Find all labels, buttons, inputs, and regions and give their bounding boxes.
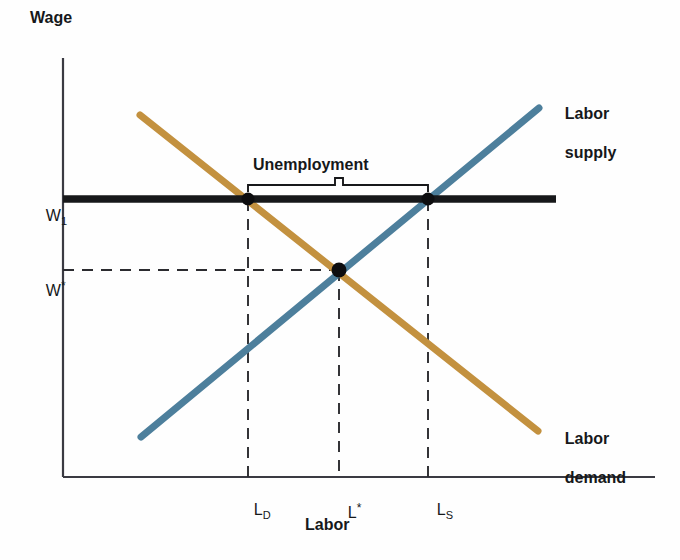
- y-tick-w1-base: W: [46, 207, 61, 224]
- y-tick-label-w1: W1: [28, 189, 67, 245]
- x-tick-lstar-sup: *: [357, 501, 362, 515]
- y-tick-wstar-base: W: [46, 282, 61, 299]
- labor-supply-label-line2: supply: [565, 144, 617, 161]
- x-tick-ls-sub: S: [446, 509, 453, 521]
- labor-demand-label-line1: Labor: [565, 430, 609, 447]
- labor-demand-label-line2: demand: [565, 469, 626, 486]
- x-tick-label-lstar: L*: [330, 483, 361, 540]
- x-tick-label-ld: LD: [236, 483, 271, 539]
- marker-ls-point: [422, 193, 435, 206]
- markers-group: [242, 193, 435, 278]
- unemployment-bracket: [248, 178, 428, 192]
- y-tick-wstar-sup: *: [61, 279, 66, 293]
- labor-supply-label-line1: Labor: [565, 105, 609, 122]
- marker-equilibrium-point: [332, 263, 347, 278]
- labor-supply-label: Labor supply: [547, 84, 616, 182]
- y-tick-label-wstar: W*: [28, 261, 66, 318]
- y-axis-title: Wage: [30, 8, 72, 28]
- unemployment-annotation-label: Unemployment: [253, 155, 369, 175]
- marker-ld-point: [242, 193, 255, 206]
- x-tick-ls-base: L: [437, 501, 446, 518]
- x-tick-ld-sub: D: [263, 509, 271, 521]
- x-tick-label-ls: LS: [419, 483, 453, 539]
- y-tick-w1-sub: 1: [61, 215, 67, 227]
- labor-market-diagram: Wage Labor Unemployment Labor supply Lab…: [0, 0, 680, 560]
- x-tick-ld-base: L: [254, 501, 263, 518]
- x-tick-lstar-base: L: [348, 504, 357, 521]
- labor-demand-label: Labor demand: [547, 409, 626, 507]
